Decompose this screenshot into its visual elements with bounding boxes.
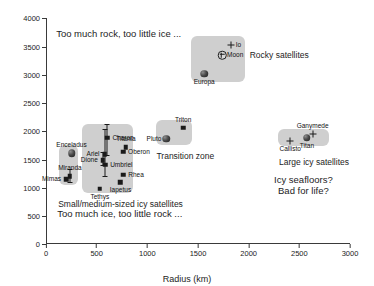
x-tick-label: 2500 [291,249,308,258]
x-tick-2000: 2000 [240,244,257,258]
y-tick-4000: 4000 [23,9,46,27]
data-point-triton [181,125,186,130]
y-tick-3000: 3000 [23,66,46,84]
y-tick-mark [42,188,46,189]
y-tick-mark [42,216,46,217]
y-tick-label: 2000 [23,127,42,136]
plot-area: 05001000150020002500300035004000 0500100… [46,18,350,244]
annotation-bad-for-life: Bad for life? [278,184,329,198]
x-tick-3000: 3000 [342,244,359,258]
group-box-transition-zone [156,120,191,145]
y-tick-mark [42,18,46,19]
y-tick-label: 3500 [23,43,42,52]
x-tick-mark [96,244,97,248]
point-label-io: Io [236,42,241,49]
data-point-miranda [68,174,73,179]
x-tick-mark [299,244,300,248]
data-point-charon [105,136,110,141]
point-label-ariel: Ariel [87,151,100,158]
y-tick-label: 2500 [23,99,42,108]
point-label-pluto: Pluto [147,136,162,143]
y-tick-mark [42,131,46,132]
annotation-too-much-rock: Too much rock, too little ice ... [56,28,181,39]
x-tick-mark [147,244,148,248]
data-point-moon [218,51,227,60]
y-tick-label: 1500 [23,156,42,165]
group-label-small-medium-icy-satellites: Small/medium-sized icy satellites [58,199,183,209]
x-tick-1500: 1500 [190,244,207,258]
point-label-europa: Europa [194,79,215,86]
point-label-umbriel: Umbriel [110,162,132,169]
point-label-moon: Moon [227,52,243,59]
data-point-io [227,41,234,48]
x-tick-label: 1000 [139,249,156,258]
x-tick-label: 2000 [240,249,257,258]
data-point-iapetus [118,180,123,185]
data-point-tethys [98,186,103,191]
x-tick-label: 500 [90,249,103,258]
x-tick-500: 500 [90,244,103,258]
point-label-triton: Triton [175,117,191,124]
x-tick-label: 0 [44,249,48,258]
x-tick-mark [198,244,199,248]
y-tick-mark [42,75,46,76]
y-tick-mark [42,160,46,161]
point-label-callisto: Callisto [280,146,301,153]
data-point-europa [200,70,208,78]
point-label-oberon: Oberon [128,149,150,156]
y-tick-mark [42,103,46,104]
data-point-enceladus [68,149,76,157]
x-tick-1000: 1000 [139,244,156,258]
point-label-mimas: Mimas [42,176,61,183]
y-tick-mark [42,47,46,48]
y-tick-3500: 3500 [23,37,46,55]
x-tick-label: 1500 [190,249,207,258]
x-tick-mark [248,244,249,248]
data-point-pluto [163,135,171,143]
y-tick-500: 500 [27,207,46,225]
y-tick-1500: 1500 [23,150,46,168]
point-label-enceladus: Enceladus [56,142,86,149]
x-tick-label: 3000 [342,249,359,258]
data-point-callisto [287,137,294,144]
point-label-miranda: Miranda [58,165,81,172]
density-radius-scatter-chart: 05001000150020002500300035004000 0500100… [0,0,374,286]
point-label-rhea: Rhea [128,172,144,179]
group-label-rocky-satellites: Rocky satellites [250,50,309,60]
x-tick-0: 0 [44,244,48,258]
x-tick-mark [45,244,46,248]
y-tick-label: 500 [27,212,42,221]
data-point-oberon [121,150,126,155]
point-label-titania: Titania [116,136,135,143]
data-point-mimas [64,177,69,182]
data-point-umbriel [103,163,108,168]
point-label-titan: Titan [300,143,314,150]
y-tick-label: 4000 [23,14,42,23]
data-point-ariel [102,152,107,157]
x-axis-label: Radius (km) [163,274,212,284]
x-tick-2500: 2500 [291,244,308,258]
y-tick-label: 1000 [23,184,42,193]
group-label-large-icy-satellites: Large icy satellites [279,157,349,167]
point-label-dione: Dione [81,157,98,164]
data-point-titan [303,134,311,142]
y-tick-label: 3000 [23,71,42,80]
y-tick-2000: 2000 [23,122,46,140]
point-label-ganymede: Ganymede [297,123,329,130]
point-label-iapetus: Iapetus [110,187,131,194]
y-tick-2500: 2500 [23,94,46,112]
y-axis-line [46,18,47,244]
data-point-rhea [121,172,126,177]
x-tick-mark [350,244,351,248]
group-label-transition-zone: Transition zone [156,151,214,161]
annotation-too-much-ice: Too much ice, too little rock ... [57,208,182,219]
